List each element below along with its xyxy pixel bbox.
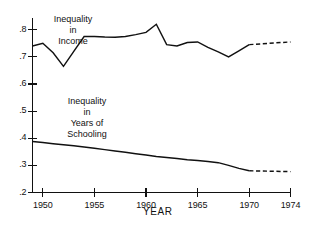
series-label-line: Schooling xyxy=(50,129,124,140)
series-label-schooling: InequalityinYears ofSchooling xyxy=(50,96,124,140)
chart-figure: .2.3.4.5.6.7.8 195019551960196519701974 … xyxy=(0,0,310,229)
x-tick-label: 1974 xyxy=(274,201,308,210)
series-label-line: Inequality xyxy=(50,96,124,107)
y-tick-label: .3 xyxy=(11,160,27,169)
x-tick-label: 1955 xyxy=(77,201,111,210)
series-label-line: Years of xyxy=(50,118,124,129)
x-tick-label: 1965 xyxy=(181,201,215,210)
x-tick-label: 1950 xyxy=(26,201,60,210)
x-axis-title: YEAR xyxy=(143,207,173,217)
series-label-line: in xyxy=(38,25,108,36)
y-tick-label: .5 xyxy=(11,106,27,115)
y-tick-label: .2 xyxy=(11,188,27,197)
y-tick-label: .8 xyxy=(11,25,27,34)
series-projection-income xyxy=(249,42,290,45)
y-tick-label: .6 xyxy=(11,79,27,88)
series-line-schooling xyxy=(33,141,250,170)
x-tick-label: 1970 xyxy=(232,201,266,210)
series-label-line: in xyxy=(50,107,124,118)
series-label-line: Income xyxy=(38,36,108,47)
series-label-income: InequalityinIncome xyxy=(38,14,108,47)
series-label-line: Inequality xyxy=(38,14,108,25)
series-projection-schooling xyxy=(249,171,290,172)
y-tick-label: .4 xyxy=(11,133,27,142)
y-tick-label: .7 xyxy=(11,52,27,61)
